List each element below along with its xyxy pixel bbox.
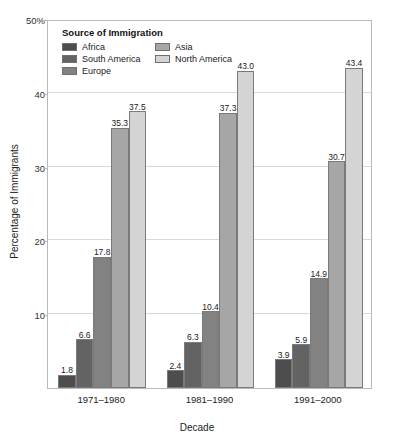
- legend-row: AfricaAsia: [62, 42, 232, 54]
- bar-value-label: 5.9: [295, 336, 307, 345]
- bar-value-label: 37.5: [129, 103, 146, 112]
- bar-value-label: 37.3: [220, 104, 237, 113]
- bar: 43.0: [237, 71, 255, 388]
- legend-entry-north-america: North America: [155, 54, 232, 64]
- x-axis-tick-label: 1991–2000: [294, 394, 342, 405]
- legend-row: South AmericaNorth America: [62, 54, 232, 66]
- legend: Source of Immigration AfricaAsiaSouth Am…: [58, 25, 236, 80]
- y-axis-tick-label: 50%: [0, 15, 45, 26]
- bar-value-label: 17.8: [94, 248, 111, 257]
- bar: 37.5: [129, 111, 147, 388]
- legend-label: Africa: [82, 42, 105, 52]
- bar-value-label: 35.3: [111, 119, 128, 128]
- y-axis-tick-label: 30: [0, 162, 45, 173]
- y-axis: 1020304050%: [0, 0, 47, 445]
- bar-value-label: 14.9: [311, 270, 328, 279]
- x-axis-tick-label: 1981–1990: [186, 394, 234, 405]
- bar: 2.4: [167, 370, 185, 388]
- bar-value-label: 43.0: [237, 62, 254, 71]
- bar: 1.8: [58, 375, 76, 388]
- bar-value-label: 2.4: [169, 362, 181, 371]
- legend-label: South America: [82, 54, 141, 64]
- bar: 5.9: [292, 344, 310, 388]
- bar: 14.9: [310, 278, 328, 388]
- bar: 43.4: [345, 68, 363, 388]
- y-axis-tick-label: 40: [0, 88, 45, 99]
- legend-entries: AfricaAsiaSouth AmericaNorth AmericaEuro…: [62, 42, 232, 78]
- legend-swatch-icon: [62, 55, 77, 63]
- legend-row: Europe: [62, 66, 232, 78]
- legend-entry-africa: Africa: [62, 42, 155, 52]
- y-axis-tick-label: 20: [0, 236, 45, 247]
- legend-entry-europe: Europe: [62, 66, 155, 76]
- bar-value-label: 10.4: [202, 303, 219, 312]
- bar-value-label: 6.6: [79, 331, 91, 340]
- gridline: [48, 166, 371, 167]
- gridline: [48, 92, 371, 93]
- bar: 3.9: [275, 359, 293, 388]
- bar-value-label: 1.8: [61, 366, 73, 375]
- bar: 6.6: [76, 339, 94, 388]
- legend-label: Asia: [175, 42, 193, 52]
- legend-swatch-icon: [62, 43, 77, 51]
- bar-value-label: 43.4: [346, 59, 363, 68]
- bar: 10.4: [202, 311, 220, 388]
- bar: 6.3: [184, 342, 202, 388]
- plot-area: 1.86.617.835.337.52.46.310.437.343.03.95…: [47, 20, 372, 389]
- x-axis-title: Decade: [0, 422, 394, 433]
- legend-title: Source of Immigration: [62, 27, 232, 38]
- y-axis-tick-label: 10: [0, 310, 45, 321]
- bar-chart: 1020304050% Percentage of Immigrants 1.8…: [0, 0, 394, 445]
- legend-swatch-icon: [62, 67, 77, 75]
- bar: 17.8: [93, 257, 111, 388]
- legend-swatch-icon: [155, 43, 170, 51]
- bar-value-label: 3.9: [278, 351, 290, 360]
- bar: 30.7: [328, 161, 346, 388]
- bar: 35.3: [111, 128, 129, 389]
- legend-swatch-icon: [155, 55, 170, 63]
- bar: 37.3: [219, 113, 237, 388]
- y-axis-title: Percentage of Immigrants: [9, 37, 20, 367]
- legend-entry-asia: Asia: [155, 42, 193, 52]
- bar-value-label: 6.3: [187, 333, 199, 342]
- x-axis-tick-label: 1971–1980: [77, 394, 125, 405]
- legend-entry-south-america: South America: [62, 54, 155, 64]
- legend-label: North America: [175, 54, 232, 64]
- bar-value-label: 30.7: [328, 153, 345, 162]
- legend-label: Europe: [82, 66, 111, 76]
- gridline: [48, 239, 371, 240]
